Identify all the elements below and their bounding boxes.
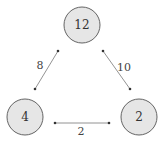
edge-top-bottom-right: 10 [102, 50, 132, 91]
edge-endpoint [102, 50, 105, 53]
node-label: 2 [135, 110, 143, 124]
edge-endpoint [57, 50, 60, 53]
edge-label: 8 [37, 59, 44, 72]
node-label: 4 [21, 110, 29, 124]
node-bottom-left: 4 [7, 99, 43, 135]
node-top: 12 [64, 7, 100, 43]
edge-endpoint [129, 88, 132, 91]
edge-top-bottom-left: 8 [34, 50, 60, 91]
edge-endpoint [34, 88, 37, 91]
edge-label: 2 [78, 125, 85, 138]
edge-endpoint [108, 122, 111, 125]
node-label: 12 [74, 18, 89, 32]
edge-endpoint [54, 122, 57, 125]
triangle-diagram: 8 10 2 12 4 2 [0, 0, 166, 145]
node-bottom-right: 2 [121, 99, 157, 135]
edge-label: 10 [117, 61, 131, 74]
edge-bottom-left-bottom-right: 2 [54, 122, 111, 138]
